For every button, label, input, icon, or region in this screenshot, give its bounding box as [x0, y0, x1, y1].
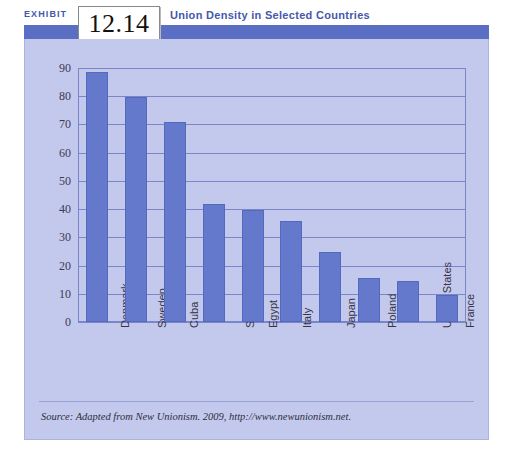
- bar-group: Japan: [311, 68, 350, 322]
- bar: [436, 295, 458, 322]
- bar: [86, 72, 108, 322]
- bar: [280, 221, 302, 322]
- y-axis-tick-60: 60: [59, 145, 71, 160]
- bar-series: DenmarkSwedenCubaSouth AfricaEgyptItalyJ…: [78, 68, 466, 322]
- bar-group: Denmark: [78, 68, 117, 322]
- x-axis-label: France: [464, 294, 476, 328]
- bar: [358, 278, 380, 322]
- bar-group: Poland: [350, 68, 389, 322]
- bar-group: Italy: [272, 68, 311, 322]
- y-axis-tick-40: 40: [59, 202, 71, 217]
- bar: [203, 204, 225, 322]
- y-axis-tick-10: 10: [59, 286, 71, 301]
- y-axis-tick-90: 90: [59, 61, 71, 76]
- exhibit-title: Union Density in Selected Countries: [170, 9, 370, 21]
- source-divider: [39, 401, 474, 402]
- bar: [319, 252, 341, 322]
- bar: [242, 210, 264, 322]
- bar-group: Egypt: [233, 68, 272, 322]
- y-axis-tick-0: 0: [65, 315, 71, 330]
- y-axis-tick-30: 30: [59, 230, 71, 245]
- bar-group: Cuba: [156, 68, 195, 322]
- y-axis-tick-80: 80: [59, 89, 71, 104]
- exhibit-number: 12.14: [89, 11, 150, 37]
- source-note: Source: Adapted from New Unionism. 2009,…: [41, 411, 351, 422]
- y-axis-tick-20: 20: [59, 258, 71, 273]
- bar: [397, 281, 419, 323]
- bar-group: France: [427, 68, 466, 322]
- exhibit-figure: EXHIBIT 12.14 Union Density in Selected …: [0, 0, 524, 455]
- y-axis-tick-70: 70: [59, 117, 71, 132]
- bar-group: Sweden: [117, 68, 156, 322]
- bar-group: United States: [388, 68, 427, 322]
- bar-chart: 0102030405060708090 DenmarkSwedenCubaSou…: [78, 68, 466, 322]
- bar-group: South Africa: [194, 68, 233, 322]
- y-axis-tick-50: 50: [59, 173, 71, 188]
- bar: [164, 122, 186, 322]
- exhibit-number-box: 12.14: [78, 6, 160, 41]
- exhibit-label: EXHIBIT: [24, 9, 67, 19]
- bar: [125, 97, 147, 322]
